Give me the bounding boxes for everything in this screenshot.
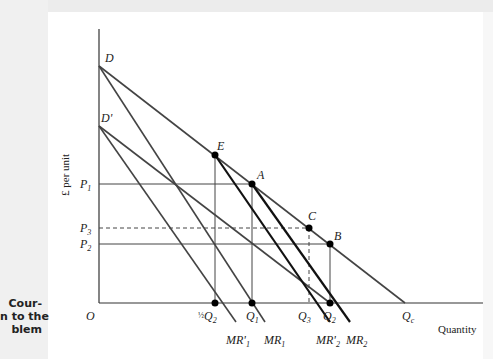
point-half-q2 bbox=[212, 300, 219, 307]
label-qc: Qc bbox=[402, 309, 415, 325]
label-mr-1: MR1 bbox=[263, 333, 285, 349]
mr2-curve bbox=[252, 184, 350, 322]
label-half-q2: ½Q2 bbox=[198, 309, 217, 325]
cournot-diagram: D D' E A C B P1 P3 P2 O ½Q2 Q1 Q3 Q2 Qc … bbox=[0, 0, 493, 359]
label-q1: Q1 bbox=[246, 309, 259, 325]
x-axis-label: Quantity bbox=[438, 323, 477, 335]
label-origin: O bbox=[86, 309, 95, 323]
point-q2 bbox=[327, 300, 334, 307]
label-mr-2: MR2 bbox=[345, 333, 367, 349]
point-a bbox=[249, 181, 256, 188]
label-c: C bbox=[308, 209, 317, 223]
label-p2: P2 bbox=[79, 237, 91, 253]
point-b bbox=[327, 241, 334, 248]
label-a: A bbox=[256, 168, 265, 182]
point-c bbox=[306, 225, 313, 232]
point-q1 bbox=[249, 300, 256, 307]
label-d-prime: D' bbox=[100, 111, 113, 125]
y-axis-label: £ per unit bbox=[59, 154, 71, 196]
label-e: E bbox=[216, 139, 225, 153]
mr1-curve bbox=[99, 66, 265, 322]
label-mr-prime-2: MR'2 bbox=[315, 333, 340, 349]
label-q3: Q3 bbox=[298, 309, 311, 325]
label-p3: P3 bbox=[79, 221, 91, 237]
mr-prime-2-curve bbox=[215, 155, 330, 322]
label-q2: Q2 bbox=[323, 309, 336, 325]
label-mr-prime-1: MR'1 bbox=[225, 333, 250, 349]
label-p1: P1 bbox=[79, 177, 91, 193]
label-d: D bbox=[104, 51, 114, 65]
label-b: B bbox=[334, 229, 342, 243]
